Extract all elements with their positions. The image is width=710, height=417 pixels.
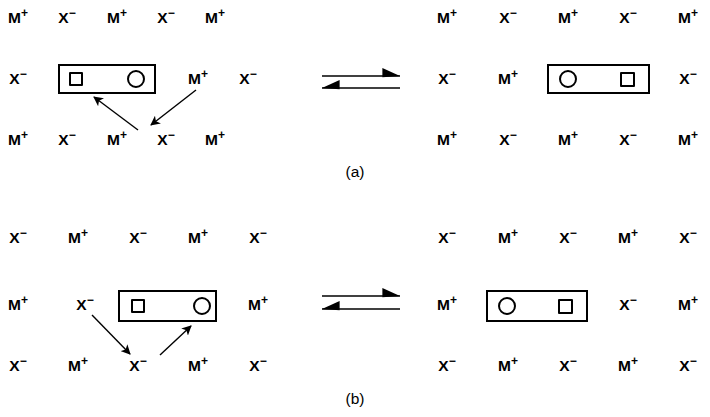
cation-label: M+ [8, 132, 28, 148]
guest-square-marker [131, 299, 145, 313]
anion-label: X− [129, 358, 146, 374]
cation-label: M+ [437, 297, 457, 313]
cation-label: M+ [618, 358, 638, 374]
panel-label-a: (a) [346, 164, 365, 180]
anion-label: X− [559, 230, 576, 246]
cation-label: M+ [678, 297, 698, 313]
anion-label: X− [249, 358, 266, 374]
equilibrium-arrow [322, 76, 400, 88]
cation-label: M+ [188, 358, 208, 374]
anion-label: X− [58, 10, 75, 26]
cation-label: M+ [68, 230, 88, 246]
anion-label: X− [438, 358, 455, 374]
cation-label: M+ [68, 358, 88, 374]
anion-label: X− [239, 71, 256, 87]
guest-square-marker [558, 299, 573, 314]
anion-label: X− [619, 297, 636, 313]
vector-overlay [0, 0, 710, 417]
cation-label: M+ [437, 10, 457, 26]
anion-label: X− [157, 10, 174, 26]
anion-label: X− [249, 230, 266, 246]
anion-label: X− [9, 358, 26, 374]
anion-label: X− [9, 71, 26, 87]
cation-to-host-arrow [94, 97, 138, 130]
cation-label: M+ [188, 230, 208, 246]
cation-label: M+ [205, 132, 225, 148]
anion-label: X− [9, 230, 26, 246]
anion-label: X− [58, 132, 75, 148]
cation-label: M+ [498, 71, 518, 87]
anion-to-host-arrow [160, 326, 191, 355]
anion-label: X− [499, 10, 516, 26]
anion-label: X− [679, 71, 696, 87]
cation-label: M+ [8, 297, 28, 313]
guest-circle-marker [127, 70, 145, 88]
anion-label: X− [129, 230, 146, 246]
cation-label: M+ [437, 132, 457, 148]
cation-label: M+ [618, 230, 638, 246]
equilibrium-arrow [322, 296, 400, 309]
anion-label: X− [438, 230, 455, 246]
guest-circle-marker [498, 297, 516, 315]
panel-label-b: (b) [346, 391, 365, 407]
cation-label: M+ [498, 358, 518, 374]
cation-label: M+ [678, 10, 698, 26]
anion-label: X− [619, 132, 636, 148]
cation-label: M+ [498, 230, 518, 246]
guest-square-marker [69, 72, 83, 86]
cation-label: M+ [678, 132, 698, 148]
cation-label: M+ [107, 10, 127, 26]
cation-label: M+ [205, 10, 225, 26]
anion-label: X− [499, 132, 516, 148]
guest-circle-marker [193, 297, 211, 315]
cation-label: M+ [188, 71, 208, 87]
anion-label: X− [76, 297, 93, 313]
anion-label: X− [679, 230, 696, 246]
anion-label: X− [679, 358, 696, 374]
figure-canvas: M+X−M+X−M+X−M+X−M+X−M+X−M+M+X−M+X−M+X−M+… [0, 0, 710, 417]
anion-label: X− [157, 132, 174, 148]
cation-label: M+ [558, 10, 578, 26]
guest-square-marker [620, 72, 635, 87]
cation-label: M+ [248, 297, 268, 313]
cation-release-arrow [151, 90, 196, 125]
anion-label: X− [559, 358, 576, 374]
guest-circle-marker [559, 70, 577, 88]
cation-label: M+ [8, 10, 28, 26]
cation-label: M+ [558, 132, 578, 148]
anion-label: X− [438, 71, 455, 87]
cation-label: M+ [107, 132, 127, 148]
anion-label: X− [619, 10, 636, 26]
